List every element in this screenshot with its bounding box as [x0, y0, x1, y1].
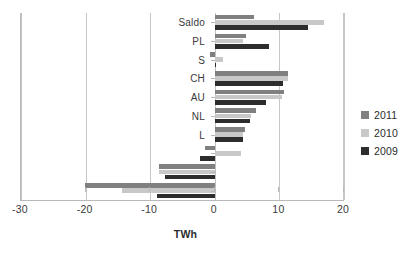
x-tick-mark--30	[20, 187, 21, 192]
bar-2009-CH	[215, 81, 283, 86]
bar-2011-L	[215, 127, 245, 132]
plot-right-edge	[343, 13, 344, 200]
bar-2011-CH	[215, 71, 288, 76]
bar-2010-S	[215, 57, 223, 62]
legend-item-2009[interactable]: 2009	[361, 142, 398, 160]
category-label-PL: PL	[192, 36, 205, 47]
category-tick-L	[211, 135, 215, 136]
bar-2010-L	[215, 132, 243, 137]
bar-2010-PL	[215, 39, 243, 44]
category-label-L: L	[199, 129, 205, 140]
bar-2011-NL	[215, 108, 256, 113]
category-axis: SaldoPLSCHAUNLL	[0, 13, 213, 200]
bar-2011-Saldo	[215, 15, 254, 20]
x-axis-title: TWh	[0, 228, 411, 240]
bar-2010-cat7	[215, 151, 241, 156]
x-tick-mark-20	[343, 187, 344, 192]
category-label-S: S	[198, 54, 205, 65]
bar-2009-L	[215, 137, 243, 142]
bar-2009-S	[215, 63, 216, 68]
x-tick-mark--20	[85, 187, 86, 192]
category-label-AU: AU	[191, 92, 205, 103]
x-tick-label--30: -30	[12, 203, 28, 215]
x-tick-label-10: 10	[272, 203, 284, 215]
x-tick-label-20: 20	[337, 203, 349, 215]
bar-chart: SaldoPLSCHAUNLL -30-20-1001020 TWh 20112…	[0, 0, 411, 253]
x-tick-mark-0	[214, 187, 215, 192]
bar-2011-AU	[215, 90, 284, 95]
legend-label-2010: 2010	[374, 127, 398, 139]
category-label-Saldo: Saldo	[178, 17, 205, 28]
bar-2009-PL	[215, 44, 269, 49]
category-tick-8	[211, 172, 215, 173]
bar-2009-NL	[215, 119, 250, 124]
legend-label-2011: 2011	[374, 109, 397, 121]
x-tick-label--20: -20	[77, 203, 93, 215]
category-tick-7	[211, 153, 215, 154]
x-tick-label-0: 0	[211, 203, 217, 215]
legend-swatch-2011	[361, 111, 369, 119]
category-tick-CH	[211, 78, 215, 79]
category-label-CH: CH	[190, 73, 205, 84]
x-axis-title-text: TWh	[174, 228, 198, 240]
legend-swatch-2010	[361, 129, 369, 137]
bar-2010-CH	[215, 76, 288, 81]
category-tick-S	[211, 60, 215, 61]
category-tick-PL	[211, 41, 215, 42]
category-tick-AU	[211, 97, 215, 98]
chart-legend: 201120102009	[361, 106, 398, 160]
bar-2010-NL	[215, 114, 251, 119]
bar-2011-PL	[215, 34, 247, 39]
legend-label-2009: 2009	[374, 145, 398, 157]
legend-swatch-2009	[361, 147, 369, 155]
bar-2009-Saldo	[215, 25, 308, 30]
legend-item-2011[interactable]: 2011	[361, 106, 398, 124]
gridline-20	[344, 13, 345, 200]
x-tick-label--10: -10	[141, 203, 157, 215]
category-tick-NL	[211, 116, 215, 117]
x-tick-mark--10	[149, 187, 150, 192]
category-tick-Saldo	[211, 22, 215, 23]
gridline-10	[279, 13, 280, 200]
x-tick-mark-10	[278, 187, 279, 192]
category-label-NL: NL	[192, 110, 205, 121]
bar-2010-Saldo	[215, 20, 324, 25]
bar-2010-AU	[215, 95, 282, 100]
bar-2009-AU	[215, 100, 267, 105]
legend-item-2010[interactable]: 2010	[361, 124, 398, 142]
